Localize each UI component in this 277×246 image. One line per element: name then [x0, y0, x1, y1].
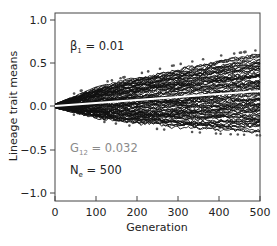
x-tick-label: 0	[52, 206, 59, 219]
x-tick-label: 500	[250, 206, 271, 219]
y-tick-label: −1.0	[20, 187, 47, 200]
x-tick-label: 200	[127, 206, 148, 219]
x-tick-label: 400	[209, 206, 230, 219]
y-tick-label: 0.0	[30, 100, 48, 113]
ne-annotation: Ne = 500	[70, 163, 122, 179]
chart: 1.0 0.5 0.0 −0.5 −1.0 0 100 200 300 400 …	[0, 0, 277, 246]
y-axis	[50, 20, 55, 193]
y-tick-label: 0.5	[30, 57, 48, 70]
y-axis-title: Lineage trait means	[7, 51, 20, 162]
x-tick-label: 100	[86, 206, 107, 219]
y-tick-label: −0.5	[20, 144, 47, 157]
y-tick-label: 1.0	[30, 14, 48, 27]
x-axis-title: Generation	[126, 221, 187, 234]
x-tick-label: 300	[168, 206, 189, 219]
